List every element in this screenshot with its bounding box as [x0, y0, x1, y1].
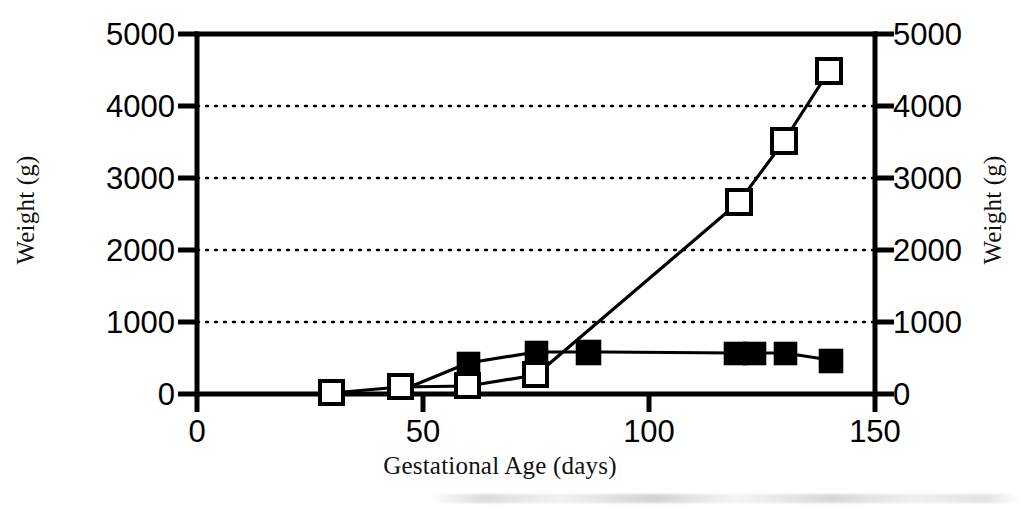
data-point-marker	[456, 374, 479, 397]
data-point-marker	[744, 343, 765, 364]
data-point-marker	[577, 341, 600, 364]
plot-area	[0, 0, 1031, 514]
data-point-marker	[389, 375, 412, 398]
data-point-marker	[320, 381, 343, 404]
data-point-marker	[526, 342, 547, 363]
x-axis-ticks	[197, 394, 875, 412]
data-point-marker	[820, 350, 842, 372]
axis-spines	[197, 34, 875, 394]
chart-figure: Weight (g) Weight (g) Gestational Age (d…	[0, 0, 1031, 514]
data-point-marker	[524, 363, 547, 386]
y-axis-right-ticks	[875, 34, 894, 394]
data-point-marker	[458, 353, 479, 374]
series-filled-square-markers	[458, 341, 842, 374]
data-point-marker	[772, 129, 796, 153]
data-point-marker	[775, 343, 796, 364]
data-point-marker	[727, 190, 751, 214]
y-axis-left-ticks	[178, 34, 197, 394]
data-point-marker	[817, 59, 841, 83]
